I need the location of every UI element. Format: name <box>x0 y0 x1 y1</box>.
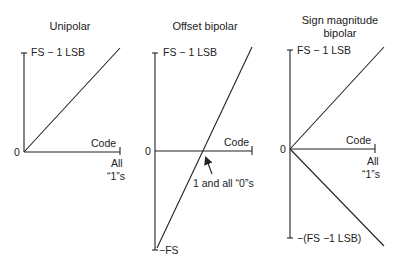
offset-bipolar-annotation: 1 and all “0”s <box>193 177 254 189</box>
offset-bipolar-code-label: Code <box>224 136 249 148</box>
sign-magnitude-zero-label: 0 <box>280 143 286 155</box>
sign-magnitude-end-label-2: “1”s <box>362 168 380 180</box>
unipolar-zero-label: 0 <box>14 146 20 158</box>
sign-magnitude-bottom-label: −(FS −1 LSB) <box>297 232 361 244</box>
unipolar-code-label: Code <box>91 137 116 149</box>
offset-bipolar-bottom-label: −FS <box>159 244 179 256</box>
sign-magnitude-title-line1: Sign magnitude <box>290 14 390 27</box>
sign-magnitude-top-label: FS − 1 LSB <box>297 44 351 56</box>
unipolar-end-label-1: All <box>111 157 123 169</box>
sign-magnitude-code-label: Code <box>346 134 371 146</box>
offset-bipolar-top-label: FS − 1 LSB <box>163 46 217 58</box>
sign-magnitude-plot <box>287 47 384 246</box>
unipolar-end-label-2: “1”s <box>107 170 125 182</box>
offset-bipolar-title: Offset bipolar <box>160 20 250 33</box>
offset-bipolar-zero-label: 0 <box>145 145 151 157</box>
sign-magnitude-title-line2: bipolar <box>290 27 390 40</box>
offset-bipolar-plot <box>152 47 252 250</box>
sign-magnitude-end-label-1: All <box>367 155 379 167</box>
unipolar-top-label: FS − 1 LSB <box>31 46 85 58</box>
unipolar-title: Unipolar <box>30 20 110 33</box>
